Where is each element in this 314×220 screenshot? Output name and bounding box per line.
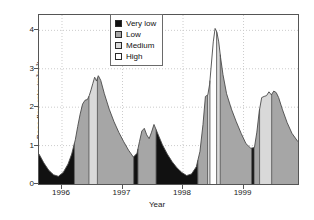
base-flow-rate-chart: Base flow rate (m³s⁻¹) 01234 19961997199…: [0, 0, 314, 220]
legend: Very lowLowMediumHigh: [110, 14, 163, 66]
x-axis-title: Year: [0, 200, 314, 209]
legend-item: Low: [115, 29, 156, 40]
x-tick-mark: [61, 185, 62, 189]
plot-area: [38, 14, 299, 185]
x-tick-label: 1998: [173, 188, 191, 197]
x-tick-label: 1996: [52, 188, 70, 197]
legend-label: High: [126, 51, 142, 62]
legend-swatch-icon: [115, 20, 122, 27]
legend-label: Very low: [126, 18, 156, 29]
legend-swatch-icon: [115, 31, 122, 38]
x-tick-mark: [182, 185, 183, 189]
legend-item: Medium: [115, 40, 156, 51]
y-axis-title-wrap: Base flow rate (m³s⁻¹): [2, 14, 14, 185]
legend-label: Low: [126, 29, 141, 40]
legend-label: Medium: [126, 40, 154, 51]
y-tick-label: 2: [16, 102, 34, 111]
x-tick-label: 1997: [113, 188, 131, 197]
y-tick-label: 4: [16, 25, 34, 34]
legend-item: Very low: [115, 18, 156, 29]
plot-clip: [39, 15, 298, 184]
y-tick-label: 3: [16, 63, 34, 72]
y-tick-label: 0: [16, 179, 34, 188]
legend-swatch-icon: [115, 53, 122, 60]
y-tick-label: 1: [16, 140, 34, 149]
hydrograph-svg: [39, 15, 298, 184]
x-tick-mark: [243, 185, 244, 189]
legend-item: High: [115, 51, 156, 62]
legend-swatch-icon: [115, 42, 122, 49]
x-tick-label: 1999: [234, 188, 252, 197]
x-tick-mark: [122, 185, 123, 189]
